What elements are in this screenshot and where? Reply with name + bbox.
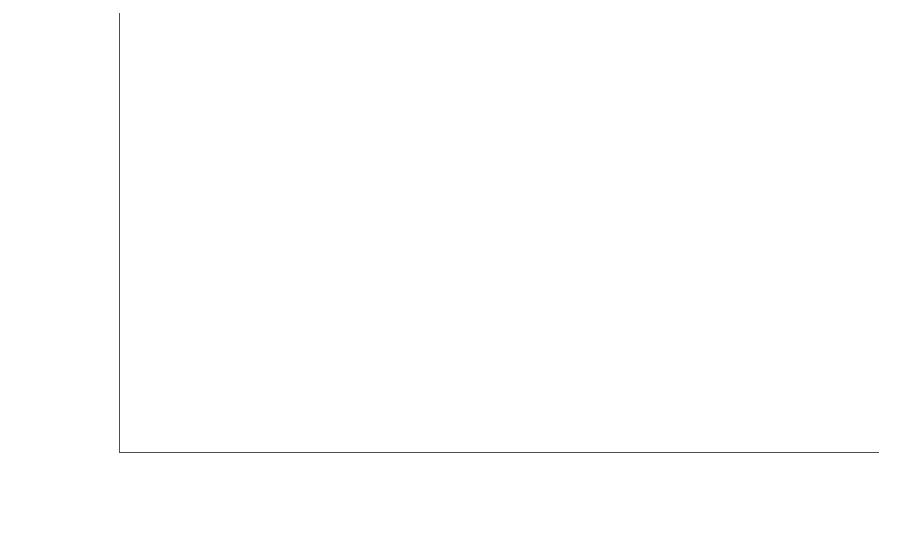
- plot-area: [0, 0, 899, 533]
- stacked-bar-chart: [0, 0, 899, 533]
